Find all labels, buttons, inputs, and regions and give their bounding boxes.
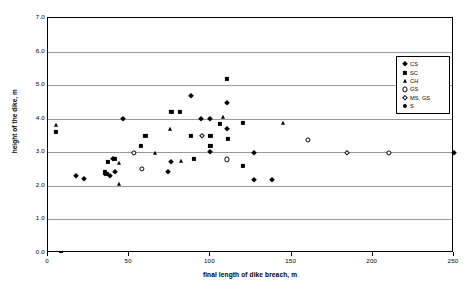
data-point-cs (251, 177, 257, 183)
gridline-y (48, 219, 452, 220)
y-tick-label: 6.0 (19, 48, 45, 54)
plot-area (47, 17, 453, 252)
data-point-sc (177, 110, 181, 114)
data-point-gs (140, 166, 145, 171)
gridline-y (48, 85, 452, 86)
legend-item-label: SC (410, 70, 418, 76)
data-point-ms-gs (199, 132, 205, 138)
x-tick-label: 50 (125, 258, 132, 264)
x-tick-mark (291, 252, 292, 256)
x-tick-mark (372, 252, 373, 256)
legend-item-ms-gs[interactable]: MS, GS (401, 94, 446, 102)
data-point-sc (208, 133, 212, 137)
circle-open-icon (401, 85, 410, 93)
x-tick-label: 100 (204, 258, 215, 264)
x-tick-label: 150 (285, 258, 296, 264)
data-point-sc (192, 157, 196, 161)
y-axis-ticks: 0.01.02.03.04.05.06.07.0 (15, 17, 45, 252)
legend-item-label: GS (410, 86, 418, 92)
gridline-y (48, 152, 452, 153)
legend-item-label: CS (410, 61, 418, 67)
data-point-sc (106, 160, 110, 164)
diamond-filled-icon (401, 60, 410, 68)
data-point-sc (208, 143, 212, 147)
data-point-cs (107, 173, 113, 179)
x-tick-label: 250 (448, 258, 459, 264)
legend-item-label: S (410, 103, 414, 109)
data-point-cs (111, 169, 117, 175)
scatter-chart: Relationship of height of the dike vs fi… (0, 0, 473, 299)
data-point-cs (451, 150, 457, 156)
data-point-sc (241, 164, 245, 168)
data-point-cs (224, 100, 230, 106)
circle-filled-icon (401, 102, 410, 110)
legend-item-s[interactable]: S (401, 102, 446, 110)
data-point-cs (224, 126, 230, 132)
data-point-ch (281, 121, 285, 125)
data-point-ch (117, 161, 121, 165)
data-point-cs (168, 159, 174, 165)
data-point-cs (110, 156, 116, 162)
data-point-cs (165, 169, 171, 175)
x-axis-title: final length of dike breach, m (47, 272, 453, 279)
data-point-gs (305, 137, 310, 142)
data-point-sc (225, 77, 229, 81)
y-tick-label: 2.0 (19, 182, 45, 188)
x-tick-label: 0 (45, 258, 49, 264)
y-tick-label: 3.0 (19, 148, 45, 154)
data-point-gs (224, 157, 229, 162)
chart-legend: CSSCCHGSMS, GSS (396, 56, 450, 114)
data-point-ch (117, 181, 121, 185)
data-point-ch (179, 158, 183, 162)
x-tick-mark (47, 252, 48, 256)
x-tick-mark (128, 252, 129, 256)
y-tick-label: 7.0 (19, 14, 45, 20)
x-axis-ticks: 050100150200250 (47, 252, 453, 268)
data-point-sc (241, 121, 245, 125)
data-point-sc (104, 172, 108, 176)
x-tick-mark (453, 252, 454, 256)
data-point-sc (138, 143, 142, 147)
y-tick-label: 5.0 (19, 81, 45, 87)
data-point-sc (218, 122, 222, 126)
y-tick-label: 0.0 (19, 249, 45, 255)
data-point-sc (54, 130, 58, 134)
triangle-filled-icon (401, 77, 410, 85)
square-filled-icon (401, 69, 410, 77)
legend-item-ch[interactable]: CH (401, 77, 446, 85)
gridline-y (48, 119, 452, 120)
data-point-sc (169, 110, 173, 114)
gridline-y (48, 52, 452, 53)
data-point-cs (188, 93, 194, 99)
data-point-cs (81, 176, 87, 182)
legend-item-sc[interactable]: SC (401, 68, 446, 76)
data-point-ms-gs (344, 150, 350, 156)
data-point-cs (269, 177, 275, 183)
gridline-y (48, 186, 452, 187)
legend-item-label: CH (410, 78, 418, 84)
y-tick-label: 4.0 (19, 115, 45, 121)
data-point-ch (54, 123, 58, 127)
x-tick-mark (209, 252, 210, 256)
diamond-open-icon (401, 94, 410, 102)
x-tick-label: 200 (366, 258, 377, 264)
data-point-ch (168, 127, 172, 131)
y-tick-label: 1.0 (19, 215, 45, 221)
data-point-sc (189, 133, 193, 137)
data-point-sc (112, 157, 116, 161)
data-point-sc (103, 170, 107, 174)
legend-item-label: MS, GS (410, 95, 430, 101)
data-point-sc (226, 137, 230, 141)
legend-item-gs[interactable]: GS (401, 85, 446, 93)
data-point-sc (143, 133, 147, 137)
data-point-cs (73, 173, 79, 179)
legend-item-cs[interactable]: CS (401, 60, 446, 68)
